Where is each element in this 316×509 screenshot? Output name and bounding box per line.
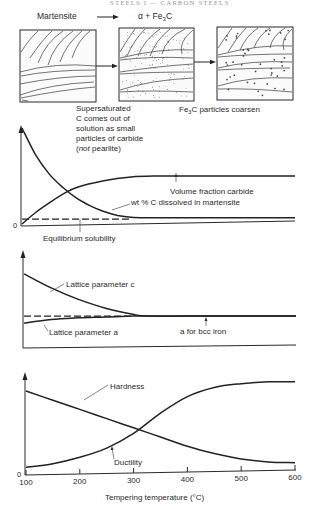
annotation-volume-fraction: Volume fraction carbide [170, 187, 254, 196]
carbide-particle [130, 47, 131, 48]
carbide-precipitation-caption: Supersaturated C comes out of solution a… [76, 104, 144, 153]
carbide-particle [156, 60, 157, 61]
carbide-particle [124, 71, 125, 72]
leader-arrow-icon [175, 173, 178, 177]
carbide-particle [243, 55, 245, 57]
carbide-particle [257, 90, 259, 92]
carbide-particle [133, 33, 134, 34]
carbide-particle [162, 58, 163, 59]
carbide-particle [137, 86, 138, 87]
carbide-particle [280, 32, 282, 34]
carbide-particle [281, 61, 283, 63]
carbide-particle [146, 54, 147, 55]
carbide-particle [186, 96, 187, 97]
carbide-particle [153, 80, 154, 81]
carbide-particle [182, 79, 183, 80]
carbide-particle [140, 82, 141, 83]
arrow-up-icon [23, 372, 28, 380]
carbide-particle [156, 46, 157, 47]
annotation-ductility: Ductility [114, 458, 142, 467]
carbide-particle [152, 64, 153, 65]
martensite-label: Martensite [37, 11, 77, 21]
carbide-particle [162, 62, 163, 63]
carbide-particle [160, 32, 161, 33]
running-header: STEELS I — CARBON STEELS [110, 0, 229, 7]
hardness-ductility-panel: 0 100200300400500600 Hardness Ductility … [17, 372, 302, 502]
annotation-hardness: Hardness [110, 382, 144, 391]
x-axis [21, 221, 295, 226]
carbide-particle [180, 40, 181, 41]
carbide-particle [242, 49, 244, 51]
x-axis-label: Tempering temperature (°C) [105, 493, 205, 502]
carbide-particle [143, 32, 144, 33]
carbide-particle [167, 57, 168, 58]
carbide-particle [156, 34, 157, 35]
carbide-particle [125, 58, 126, 59]
carbide-particle [276, 75, 278, 77]
carbide-particle [132, 82, 133, 83]
carbide-particle [266, 83, 268, 85]
x-tick-label-100: 100 [19, 478, 33, 487]
carbide-particle [148, 33, 149, 34]
carbide-particle [130, 60, 131, 61]
carbide-particle [167, 41, 168, 42]
carbide-particle [260, 63, 262, 65]
origin-label: 0 [13, 221, 17, 230]
carbide-particle [127, 90, 128, 91]
leader-line [44, 325, 48, 331]
carbide-particle [163, 57, 164, 58]
carbide-particle [232, 61, 234, 63]
carbide-particle [153, 37, 154, 38]
annotation-lattice-c: Lattice parameter c [66, 280, 134, 289]
carbide-particle [125, 55, 126, 56]
x-tick-label-300: 300 [127, 476, 141, 485]
carbide-particle [271, 72, 273, 74]
annotation-lattice-a: Lattice parameter a [49, 328, 118, 337]
carbide-particle [152, 56, 153, 57]
carbide-particle [270, 74, 272, 76]
carbide-particle [155, 68, 156, 69]
alpha-fe3c-fine-microstructure [119, 28, 194, 101]
carbide-particle [270, 68, 272, 70]
carbide-particle [160, 63, 161, 64]
arrow-up-icon [21, 250, 26, 258]
svg-text:(not pearlite): (not pearlite) [76, 144, 121, 153]
carbide-particle [184, 38, 185, 39]
carbide-particle [179, 43, 180, 44]
carbide-particle [174, 74, 175, 75]
carbide-particle [127, 32, 128, 33]
carbide-particle [184, 76, 185, 77]
annotation-bcc-iron: a for bcc iron [180, 327, 226, 336]
carbide-particle [225, 62, 227, 64]
tempering-figure: STEELS I — CARBON STEELS Martensite α + … [0, 0, 316, 509]
carbide-particle [241, 64, 243, 66]
carbide-particle [127, 35, 128, 36]
carbide-particle [123, 41, 124, 42]
lattice-parameter-panel: Lattice parameter c Lattice parameter a … [21, 250, 297, 348]
carbide-particle [140, 95, 141, 96]
svg-text:C comes out of: C comes out of [76, 114, 131, 123]
carbide-particle [168, 49, 169, 50]
carbide-particle [183, 48, 184, 49]
x-tick-label-600: 600 [288, 473, 302, 482]
carbide-particle [262, 94, 264, 96]
carbide-particle [152, 36, 153, 37]
carbide-particle [158, 59, 159, 60]
carbide-particle [173, 73, 174, 74]
carbide-particle [154, 97, 155, 98]
carbide-particle [153, 60, 154, 61]
carbide-particle [169, 80, 170, 81]
carbide-particle [152, 87, 153, 88]
carbide-particle [128, 97, 129, 98]
carbide-particle [153, 68, 154, 69]
carbide-particle [155, 58, 156, 59]
carbide-particle [189, 68, 190, 69]
carbide-particle [170, 77, 171, 78]
coarsen-caption: Fe3C particles coarsen [179, 105, 260, 115]
carbide-particle [187, 43, 188, 44]
carbide-particle [159, 53, 160, 54]
x-axis [23, 345, 296, 348]
carbide-particle [149, 65, 150, 66]
series-lattice-parameter-c [24, 274, 296, 316]
carbide-particle [143, 91, 144, 92]
